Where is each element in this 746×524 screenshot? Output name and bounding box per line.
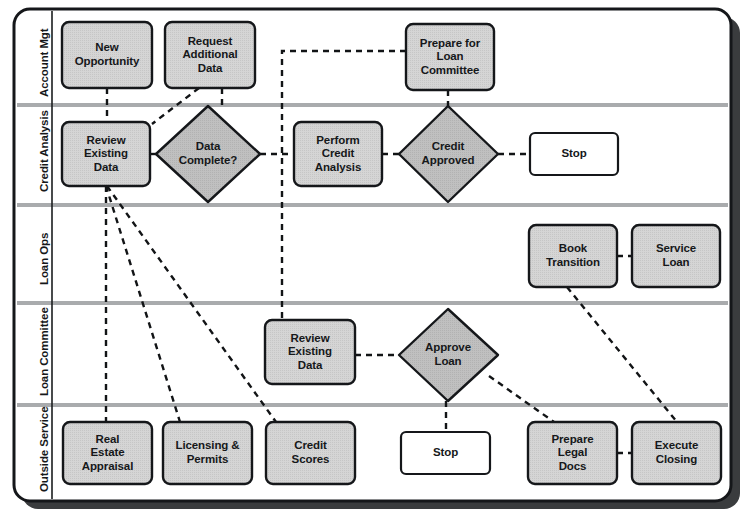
node-service-loan	[632, 225, 720, 287]
lane-label-loan-committee: Loan Committee	[38, 307, 50, 396]
node-request-additional-data	[165, 22, 255, 88]
swimlane-diagram-canvas: Account Mgt Credit Analysis Loan Ops Loa…	[0, 0, 746, 524]
node-execute-closing	[632, 422, 721, 484]
node-stop-approve	[401, 432, 490, 474]
node-licensing-and-permits	[163, 422, 252, 484]
node-real-estate-appraisal	[63, 422, 152, 484]
node-credit-scores	[266, 422, 355, 484]
node-book-transition	[529, 225, 617, 287]
lane-label-account-mgt: Account Mgt	[38, 28, 50, 97]
node-review-existing-data-credit	[62, 122, 150, 186]
node-perform-credit-analysis	[294, 122, 382, 186]
node-stop-credit	[530, 133, 618, 175]
node-review-existing-data-committee	[265, 320, 355, 384]
node-prepare-for-loan-committee	[406, 24, 494, 90]
lane-label-outside-service: Outside Service	[38, 407, 50, 492]
node-prepare-legal-docs	[528, 422, 617, 484]
lane-label-credit-analysis: Credit Analysis	[38, 110, 50, 192]
node-new-opportunity	[62, 22, 152, 88]
diagram-vector-layer	[0, 0, 746, 524]
lane-label-loan-ops: Loan Ops	[38, 233, 50, 285]
